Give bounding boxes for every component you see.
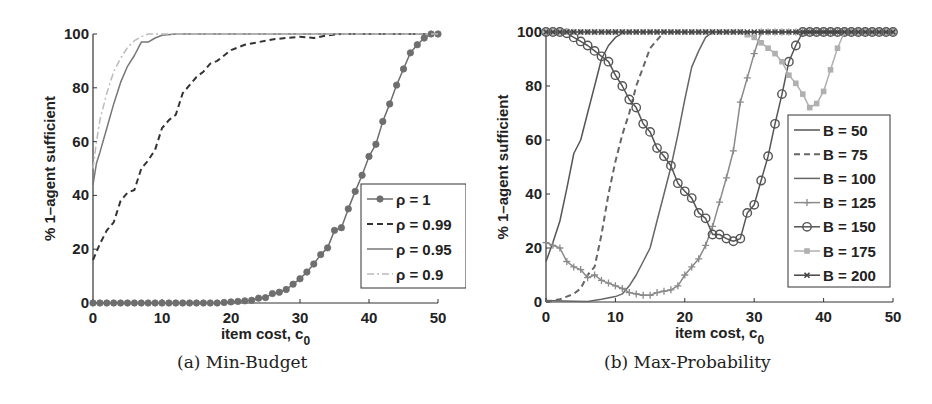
dot-marker	[145, 300, 151, 306]
square-marker	[821, 89, 827, 95]
dot-marker	[180, 300, 186, 306]
dot-marker	[331, 227, 337, 233]
legend-label: B = 150	[823, 218, 876, 235]
plus-marker	[543, 239, 550, 246]
plus-marker	[654, 289, 661, 296]
square-marker	[793, 81, 799, 87]
dot-marker	[373, 141, 379, 147]
legend-label: B = 175	[823, 243, 876, 260]
plus-marker	[737, 99, 744, 106]
dot-marker	[297, 276, 303, 282]
dot-marker	[214, 300, 220, 306]
legend-label: B = 50	[823, 122, 868, 139]
legend: ρ = 1ρ = 0.99ρ = 0.95ρ = 0.9	[361, 184, 466, 288]
x-axis-label: item cost, c0	[675, 324, 765, 347]
plus-marker	[612, 282, 619, 289]
plus-marker	[702, 242, 709, 249]
legend-label: B = 100	[823, 170, 876, 187]
x-tick-label: 40	[815, 308, 832, 325]
y-tick-label: 20	[72, 240, 89, 257]
dot-marker	[304, 269, 310, 275]
y-tick-label: 80	[525, 77, 542, 94]
dot-marker	[359, 172, 365, 178]
y-tick-label: 0	[534, 293, 542, 310]
dot-marker	[186, 300, 192, 306]
plus-marker	[626, 289, 633, 296]
series-line	[93, 34, 438, 185]
square-marker	[765, 45, 771, 51]
x-tick-label: 0	[89, 309, 97, 326]
y-tick-label: 40	[525, 185, 542, 202]
y-tick-label: 80	[72, 79, 89, 96]
dot-marker	[345, 206, 351, 212]
square-marker	[779, 59, 785, 65]
square-marker	[800, 91, 806, 97]
x-tick-label: 50	[885, 308, 902, 325]
plus-marker	[605, 280, 612, 287]
dot-marker	[131, 300, 137, 306]
y-tick-label: 0	[81, 294, 89, 311]
x-tick-label: 10	[154, 309, 171, 326]
plus-marker	[730, 147, 737, 154]
dot-marker	[207, 300, 213, 306]
legend-label: B = 75	[823, 146, 868, 163]
plus-marker	[633, 290, 640, 297]
x-tick-label: 20	[676, 308, 693, 325]
dot-marker	[387, 101, 393, 107]
caption-min-budget: (a) Min-Budget	[177, 352, 307, 372]
dot-marker	[380, 118, 386, 124]
dot-marker	[90, 300, 96, 306]
dot-marker	[193, 300, 199, 306]
dot-marker	[124, 300, 130, 306]
legend: B = 50B = 75B = 100B = 125B = 150B = 175…	[788, 115, 890, 287]
series-3	[93, 34, 438, 169]
dot-marker	[377, 196, 383, 202]
dot-marker	[400, 66, 406, 72]
dot-marker	[111, 300, 117, 306]
legend-label: ρ = 0.95	[396, 241, 452, 258]
square-marker	[828, 67, 834, 73]
panel-min-budget: 01020304050020406080100item cost, c0% 1–…	[0, 0, 466, 404]
dot-marker	[407, 50, 413, 56]
x-tick-label: 30	[292, 309, 309, 326]
dot-marker	[159, 300, 165, 306]
dot-marker	[352, 188, 358, 194]
dot-marker	[414, 42, 420, 48]
dot-marker	[117, 300, 123, 306]
dot-marker	[311, 261, 317, 267]
square-marker	[751, 35, 757, 41]
dot-marker	[283, 286, 289, 292]
series-2	[93, 34, 438, 185]
plus-marker	[716, 199, 723, 206]
dot-marker	[235, 298, 241, 304]
dot-marker	[318, 251, 324, 257]
plus-marker	[647, 292, 654, 299]
square-marker	[772, 51, 778, 57]
dot-marker	[242, 298, 248, 304]
caption-max-probability: (b) Max-Probability	[604, 352, 771, 372]
series-line	[93, 34, 438, 169]
y-axis-label: % 1–agent sufficient	[41, 96, 58, 241]
dot-marker	[255, 295, 261, 301]
y-tick-label: 20	[525, 239, 542, 256]
dot-marker	[138, 300, 144, 306]
square-marker	[807, 105, 813, 111]
y-tick-label: 100	[64, 25, 89, 42]
plus-marker	[723, 174, 730, 181]
dot-marker	[393, 82, 399, 88]
dot-marker	[269, 290, 275, 296]
dot-marker	[290, 281, 296, 287]
x-tick-label: 40	[361, 309, 378, 326]
dot-marker	[338, 224, 344, 230]
legend-label: B = 200	[823, 267, 876, 284]
plus-marker	[751, 50, 758, 57]
dot-marker	[221, 299, 227, 305]
y-tick-label: 40	[72, 186, 89, 203]
dot-marker	[262, 294, 268, 300]
y-axis-label: % 1–agent sufficient	[494, 94, 511, 239]
dot-marker	[276, 289, 282, 295]
panel-max-probability: 01020304050020406080100item cost, c0% 1–…	[466, 0, 932, 404]
dot-marker	[249, 297, 255, 303]
square-marker	[835, 45, 841, 51]
dot-marker	[228, 299, 234, 305]
